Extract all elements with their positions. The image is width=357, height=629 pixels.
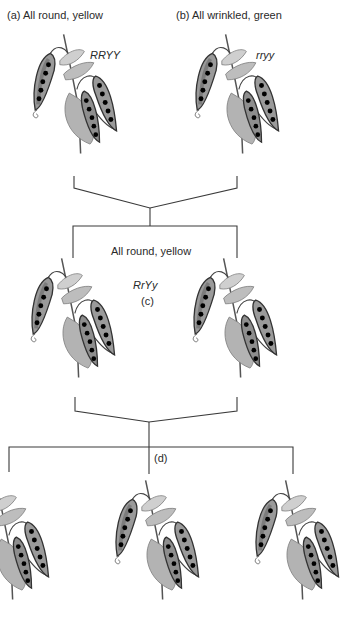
f2-plant-right-illustration — [244, 476, 348, 604]
f1-genotype: RrYy — [133, 279, 157, 292]
f1-plant-right-illustration — [182, 254, 286, 382]
f2-plant-left-illustration — [0, 476, 58, 604]
f1-marker-c: (c) — [141, 295, 154, 308]
f1-plant-left-illustration — [20, 254, 124, 382]
f2-marker-d: (d) — [154, 452, 167, 465]
f2-plant-middle-illustration — [104, 476, 208, 604]
